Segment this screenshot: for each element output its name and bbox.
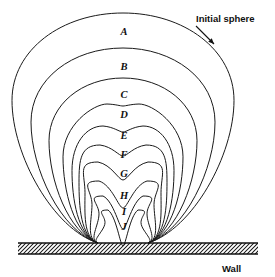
stage-label-d: D xyxy=(119,109,128,120)
wall-label: Wall xyxy=(222,263,241,274)
stage-label-c: C xyxy=(120,89,128,100)
bubble-collapse-diagram: ABCDEFGHIJ Initial sphere Wall xyxy=(0,0,275,277)
stage-label-j: J xyxy=(120,221,127,232)
figure-background xyxy=(0,0,275,277)
stage-label-b: B xyxy=(119,61,127,72)
stage-label-a: A xyxy=(119,26,127,37)
stage-label-f: F xyxy=(119,149,127,160)
stage-label-e: E xyxy=(119,130,127,141)
stage-label-g: G xyxy=(120,168,128,179)
stage-label-h: H xyxy=(119,190,129,201)
initial-sphere-label: Initial sphere xyxy=(196,13,255,24)
